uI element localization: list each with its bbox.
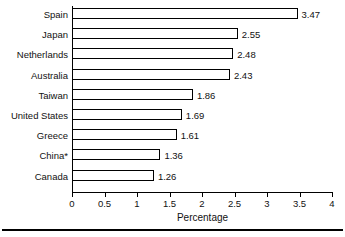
x-axis-tick: [332, 193, 333, 197]
category-label: Netherlands: [0, 49, 68, 61]
x-axis-tick: [170, 193, 171, 197]
bar-value-label: 2.48: [237, 49, 256, 61]
bar: [72, 109, 182, 120]
bar-row: United States1.69: [0, 107, 345, 127]
x-axis-tick-label: 0: [57, 198, 87, 210]
x-axis-title: Percentage: [72, 212, 333, 224]
x-axis-tick-label: 2: [187, 198, 217, 210]
bar-value-label: 3.47: [302, 9, 321, 21]
x-axis-tick: [235, 193, 236, 197]
bar: [72, 129, 177, 140]
bar-row: Spain3.47: [0, 6, 345, 26]
x-axis-tick-label: 4: [317, 198, 345, 210]
bar-value-label: 2.55: [242, 29, 261, 41]
x-axis-tick: [137, 193, 138, 197]
bar-value-label: 1.61: [181, 130, 200, 142]
bar: [72, 149, 160, 160]
category-label: Spain: [0, 9, 68, 21]
bar-value-label: 1.69: [186, 110, 205, 122]
category-label: Canada: [0, 171, 68, 183]
bottom-divider: [2, 229, 343, 231]
x-axis-tick-label: 3.5: [285, 198, 315, 210]
bar-row: Japan2.55: [0, 26, 345, 46]
bar: [72, 89, 193, 100]
x-axis-tick-label: 1.5: [155, 198, 185, 210]
category-label: Greece: [0, 130, 68, 142]
category-label: Taiwan: [0, 90, 68, 102]
category-label: United States: [0, 110, 68, 122]
x-axis-tick-label: 0.5: [90, 198, 120, 210]
bar-value-label: 1.86: [197, 90, 216, 102]
bar: [72, 28, 238, 39]
bar: [72, 69, 230, 80]
x-axis-tick: [300, 193, 301, 197]
bar: [72, 170, 154, 181]
x-axis-tick: [267, 193, 268, 197]
bar-row: Netherlands2.48: [0, 46, 345, 66]
bar-value-label: 1.36: [164, 150, 183, 162]
x-axis-tick: [105, 193, 106, 197]
bar-row: Greece1.61: [0, 127, 345, 147]
category-label: Japan: [0, 29, 68, 41]
bar-row: China*1.36: [0, 147, 345, 167]
x-axis-tick: [72, 193, 73, 197]
category-label: Australia: [0, 70, 68, 82]
x-axis-tick-label: 2.5: [220, 198, 250, 210]
x-axis-tick-label: 3: [252, 198, 282, 210]
bar-row: Canada1.26: [0, 168, 345, 188]
x-axis-tick: [202, 193, 203, 197]
bar: [72, 48, 233, 59]
bar-value-label: 2.43: [234, 70, 253, 82]
bar-chart: Spain3.47Japan2.55Netherlands2.48Austral…: [0, 0, 345, 237]
bar-value-label: 1.26: [158, 171, 177, 183]
category-label: China*: [0, 150, 68, 162]
x-axis-tick-label: 1: [122, 198, 152, 210]
bar-row: Australia2.43: [0, 67, 345, 87]
bar: [72, 8, 298, 19]
bar-row: Taiwan1.86: [0, 87, 345, 107]
